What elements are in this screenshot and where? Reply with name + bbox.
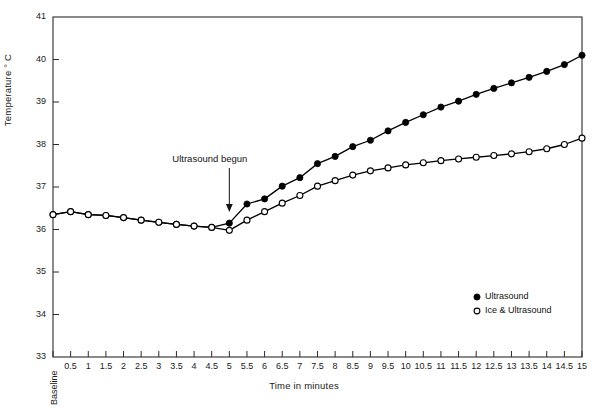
data-point-marker [491,153,497,159]
data-point-marker [173,221,179,227]
legend-label-1: Ultrasound [485,291,529,301]
x-tick-label: 11.5 [450,361,467,371]
data-point-marker [262,196,268,202]
data-point-marker [438,158,444,164]
x-tick-label: 14.5 [556,361,574,371]
data-point-marker [473,91,479,97]
data-point-marker [385,128,391,134]
data-point-marker [332,153,338,159]
data-point-marker [85,212,91,218]
x-tick-label: 9 [368,361,373,371]
legend-label-2: Ice & Ultrasound [485,305,552,315]
y-tick-label: 33 [20,351,46,361]
x-tick-label: 5 [227,361,232,371]
data-point-marker [297,175,303,181]
data-point-marker [561,142,567,148]
x-tick-label: 8 [333,361,338,371]
data-point-marker [420,160,426,166]
data-point-marker [579,52,585,58]
data-point-marker [491,85,497,91]
data-point-marker [456,156,462,162]
annotation-arrow-head [226,204,233,212]
data-point-marker [544,68,550,74]
x-tick-label: 13.5 [520,361,538,371]
x-tick-label: 12 [471,361,481,371]
data-point-marker [403,119,409,125]
data-point-marker [244,217,250,223]
chart-plot-area [0,0,608,414]
y-tick-label: 37 [20,181,46,191]
data-point-marker [156,219,162,225]
y-tick-label: 35 [20,266,46,276]
x-tick-label: 4 [192,361,197,371]
data-point-marker [438,104,444,110]
data-point-marker [473,154,479,160]
temperature-line-chart: Temperature ° C Time in minutes 33343536… [0,0,608,414]
series-line-1 [53,55,582,227]
data-point-marker [121,215,127,221]
data-point-marker [455,98,461,104]
data-point-marker [350,144,356,150]
x-tick-label: 12.5 [485,361,503,371]
data-point-marker [226,227,232,233]
data-point-marker [367,168,373,174]
x-tick-label: 2 [121,361,126,371]
x-tick-label: 7 [297,361,302,371]
y-tick-label: 39 [20,96,46,106]
data-point-marker [420,112,426,118]
data-point-marker [544,146,550,152]
x-tick-label: 3 [156,361,161,371]
annotation-label: Ultrasound begun [172,153,247,164]
x-tick-label-baseline: Baseline [49,370,59,405]
data-point-marker [526,149,532,155]
x-tick-label: 15 [577,361,587,371]
data-point-marker [332,178,338,184]
data-point-marker [367,137,373,143]
x-tick-label: 4.5 [205,361,218,371]
x-tick-label: 3.5 [170,361,183,371]
x-tick-label: 1 [86,361,91,371]
y-tick-label: 34 [20,309,46,319]
x-tick-label: 10 [401,361,411,371]
x-tick-label: 5.5 [241,361,254,371]
x-tick-label: 0.5 [64,361,77,371]
legend-marker-1 [474,294,480,300]
x-tick-label: 2.5 [135,361,148,371]
x-tick-label: 10.5 [415,361,433,371]
data-point-marker [508,151,514,157]
x-tick-label: 8.5 [347,361,360,371]
data-point-marker [385,165,391,171]
data-point-marker [403,162,409,168]
y-tick-label: 38 [20,139,46,149]
data-point-marker [103,212,109,218]
data-point-marker [138,217,144,223]
x-tick-label: 7.5 [311,361,324,371]
data-point-marker [68,209,74,215]
y-tick-label: 41 [20,11,46,21]
data-point-marker [350,172,356,178]
data-point-marker [244,201,250,207]
data-point-marker [209,224,215,230]
data-point-marker [314,161,320,167]
x-tick-label: 14 [542,361,552,371]
x-tick-label: 1.5 [100,361,113,371]
x-tick-label: 6.5 [276,361,289,371]
x-tick-label: 9.5 [382,361,395,371]
y-tick-label: 40 [20,54,46,64]
y-axis-title: Temperature ° C [2,30,13,150]
x-tick-label: 13 [506,361,516,371]
data-point-marker [279,200,285,206]
data-point-marker [508,80,514,86]
y-tick-label: 36 [20,224,46,234]
data-point-marker [262,209,268,215]
data-point-marker [579,135,585,141]
data-point-marker [279,183,285,189]
data-point-marker [191,223,197,229]
data-point-marker [297,193,303,199]
data-point-marker [526,74,532,80]
data-point-marker [50,212,56,218]
data-point-marker [226,220,232,226]
x-axis-title: Time in minutes [0,380,608,391]
x-tick-label: 6 [262,361,267,371]
data-point-marker [315,183,321,189]
